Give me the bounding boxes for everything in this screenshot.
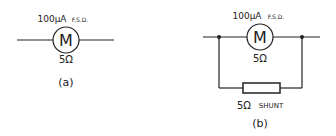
- circuit-diagrams: M 100µA F.S.D. 5Ω (a) M 100µA F.S.D. 5Ω …: [0, 0, 336, 136]
- caption-b: (b): [252, 117, 268, 130]
- meter-resistance: 5Ω: [59, 54, 73, 65]
- meter-rating-suffix: F.S.D.: [268, 13, 285, 20]
- junction-dot-left: [217, 35, 221, 39]
- meter-symbol: M: [59, 31, 73, 50]
- junction-dot-right: [300, 35, 304, 39]
- shunt-label: SHUNT: [259, 102, 284, 110]
- shunt-resistor: [243, 83, 280, 93]
- meter-rating-suffix: F.S.D.: [72, 16, 89, 23]
- meter-symbol: M: [253, 28, 267, 47]
- meter-rating: 100µA: [232, 11, 262, 21]
- caption-a: (a): [58, 76, 73, 89]
- meter-rating: 100µA: [37, 14, 67, 24]
- shunt-value: 5Ω: [237, 100, 251, 111]
- meter-resistance: 5Ω: [253, 53, 267, 64]
